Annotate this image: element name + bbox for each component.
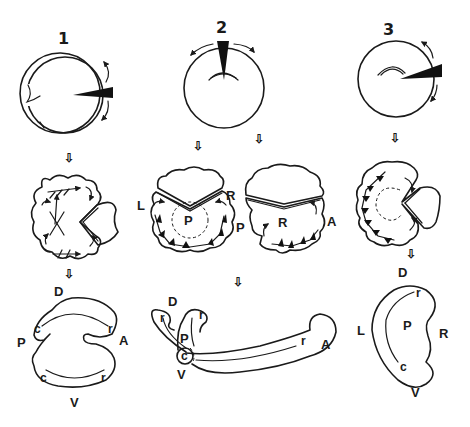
label-a: A — [327, 214, 337, 229]
label-v: V — [70, 395, 79, 410]
label-r-3: r — [301, 334, 306, 348]
label-l: L — [357, 323, 365, 338]
rotation-arrow-icon — [102, 101, 108, 120]
down-arrow-icon: ⇩ — [64, 151, 74, 165]
down-arrow-icon: ⇩ — [193, 139, 203, 153]
label-l: L — [137, 198, 145, 213]
down-arrow-icon: ⇩ — [390, 131, 400, 145]
panel-2-middle-right: R P A — [236, 164, 337, 253]
panel-number-2: 2 — [216, 18, 227, 37]
label-a: A — [119, 333, 129, 348]
rotation-arrow-icon — [422, 42, 433, 58]
down-arrow-icon: ⇩ — [406, 247, 416, 261]
label-d: D — [168, 294, 177, 309]
label-r-1: r — [160, 311, 165, 325]
label-r-upper: r — [108, 322, 113, 336]
rotation-arrow-icon — [191, 44, 213, 55]
label-c-small: c — [400, 360, 407, 374]
cleavage-diagram: 1 2 ⇩ ⇩ 3 ⇩ ⇩ — [0, 0, 470, 427]
panel-1-bottom: D P A V c r c r — [17, 284, 129, 410]
label-r-center: R — [278, 215, 288, 230]
down-arrow-icon: ⇩ — [64, 267, 74, 281]
label-r-small: r — [416, 286, 421, 300]
label-p: P — [184, 213, 193, 228]
label-c-upper: c — [34, 322, 41, 336]
panel-3-top: 3 ⇩ — [358, 20, 442, 145]
label-r: R — [439, 326, 449, 341]
label-v: V — [177, 367, 186, 382]
panel-1-top: 1 — [20, 29, 113, 133]
panel-number-3: 3 — [383, 20, 394, 39]
label-p: P — [403, 318, 412, 333]
label-p: P — [180, 331, 189, 346]
label-p: P — [17, 335, 26, 350]
panel-number-1: 1 — [58, 29, 69, 48]
label-d: D — [54, 284, 63, 299]
panel-2-middle-left: P L R — [137, 167, 236, 252]
down-arrow-icon: ⇩ — [233, 275, 243, 289]
label-c: c — [181, 349, 188, 363]
panel-3-middle — [356, 162, 440, 246]
label-c-lower: c — [40, 371, 47, 385]
label-r: R — [226, 188, 236, 203]
panel-2-bottom: D P V A c r r r — [152, 294, 336, 382]
panel-1-middle — [31, 175, 118, 258]
rotation-arrow-icon — [104, 62, 109, 82]
panel-2-top: 2 ⇩ ⇩ — [184, 18, 264, 153]
label-a: A — [321, 337, 331, 352]
down-arrow-icon: ⇩ — [254, 132, 264, 146]
label-d: D — [398, 265, 407, 280]
panel-3-bottom: D L P R V r c — [357, 265, 449, 400]
wedge-icon — [400, 64, 442, 79]
label-r-2: r — [199, 308, 204, 322]
label-p: P — [236, 220, 245, 235]
label-r-lower: r — [101, 371, 106, 385]
wedge-icon — [73, 87, 113, 98]
label-v: V — [411, 385, 420, 400]
